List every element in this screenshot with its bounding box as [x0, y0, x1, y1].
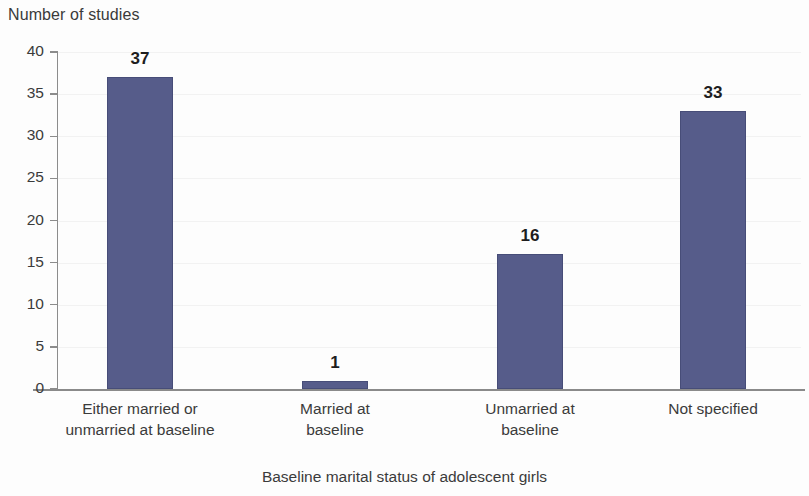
y-tick-mark [50, 178, 58, 179]
y-tick-label: 35 [10, 84, 44, 102]
x-axis-title: Baseline marital status of adolescent gi… [0, 468, 809, 486]
x-axis-line [33, 389, 805, 391]
y-tick-mark [50, 346, 58, 347]
x-category-label-line: Either married or [45, 398, 235, 419]
y-tick-label: 40 [10, 42, 44, 60]
y-tick-mark [50, 136, 58, 137]
y-tick-label: 0 [10, 379, 44, 397]
y-tick-label: 15 [10, 253, 44, 271]
y-tick-label: 10 [10, 295, 44, 313]
bar-value-label: 37 [100, 49, 180, 69]
x-category-label-line: baseline [240, 419, 430, 440]
y-tick-mark [50, 220, 58, 221]
y-tick-label: 20 [10, 211, 44, 229]
x-category-label-line: Unmarried at [435, 398, 625, 419]
y-tick-label: 30 [10, 126, 44, 144]
y-tick-mark [50, 51, 58, 52]
bar [680, 111, 746, 389]
bar-value-label: 16 [490, 226, 570, 246]
x-category-label: Not specified [618, 398, 808, 419]
x-category-label-line: unmarried at baseline [45, 419, 235, 440]
x-category-label: Either married orunmarried at baseline [45, 398, 235, 440]
bar-value-label: 1 [295, 353, 375, 373]
bar [497, 254, 563, 389]
y-tick-mark [50, 262, 58, 263]
bar-chart-figure: Number of studies 0510152025303540 37116… [0, 0, 809, 496]
y-tick-mark [50, 304, 58, 305]
y-tick-label: 5 [10, 337, 44, 355]
y-tick-mark [50, 93, 58, 94]
x-category-label-line: baseline [435, 419, 625, 440]
bar [107, 77, 173, 389]
y-tick-mark [50, 388, 58, 389]
y-axis-title: Number of studies [8, 6, 140, 24]
x-category-label-line: Not specified [618, 398, 808, 419]
bar [302, 381, 368, 389]
bar-value-label: 33 [673, 83, 753, 103]
x-category-label-line: Married at [240, 398, 430, 419]
y-tick-label: 25 [10, 168, 44, 186]
x-category-label: Unmarried atbaseline [435, 398, 625, 440]
x-category-label: Married atbaseline [240, 398, 430, 440]
